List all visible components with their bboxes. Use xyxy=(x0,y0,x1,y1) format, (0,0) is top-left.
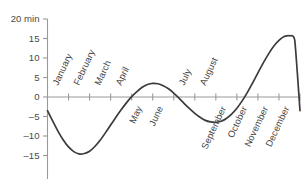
month-label-march: March xyxy=(93,59,113,87)
chart-canvas: 20 min151050–5–10–15 JanuaryFebruaryMarc… xyxy=(0,0,307,186)
y-axis-tick-label: –5 xyxy=(29,111,40,122)
month-labels-group: JanuaryFebruaryMarchAprilMayJuneJulyAugu… xyxy=(51,48,292,151)
y-axis-tick-label: 15 xyxy=(29,33,40,44)
y-axis-tick-label: 5 xyxy=(34,72,39,83)
y-axis-tick-label: –15 xyxy=(23,150,39,161)
y-axis-tick-label: 0 xyxy=(34,91,39,102)
month-label-may: May xyxy=(127,104,144,125)
y-axis-tick-label: 10 xyxy=(29,52,40,63)
month-label-july: July xyxy=(177,67,193,87)
y-axis-ticks xyxy=(43,19,48,156)
month-label-april: April xyxy=(114,65,131,87)
month-label-september: September xyxy=(199,105,228,151)
y-axis-unit-label: 20 min xyxy=(11,13,40,24)
month-label-january: January xyxy=(51,52,74,87)
month-label-august: August xyxy=(198,56,220,87)
equation-of-time-chart: 20 min151050–5–10–15 JanuaryFebruaryMarc… xyxy=(0,0,307,186)
month-label-june: June xyxy=(147,105,165,128)
x-axis-group xyxy=(48,94,301,101)
y-axis-group: 20 min151050–5–10–15 xyxy=(11,13,48,179)
y-axis-tick-labels: 20 min151050–5–10–15 xyxy=(11,13,40,161)
month-label-october: October xyxy=(226,105,249,140)
y-axis-tick-label: –10 xyxy=(23,130,39,141)
